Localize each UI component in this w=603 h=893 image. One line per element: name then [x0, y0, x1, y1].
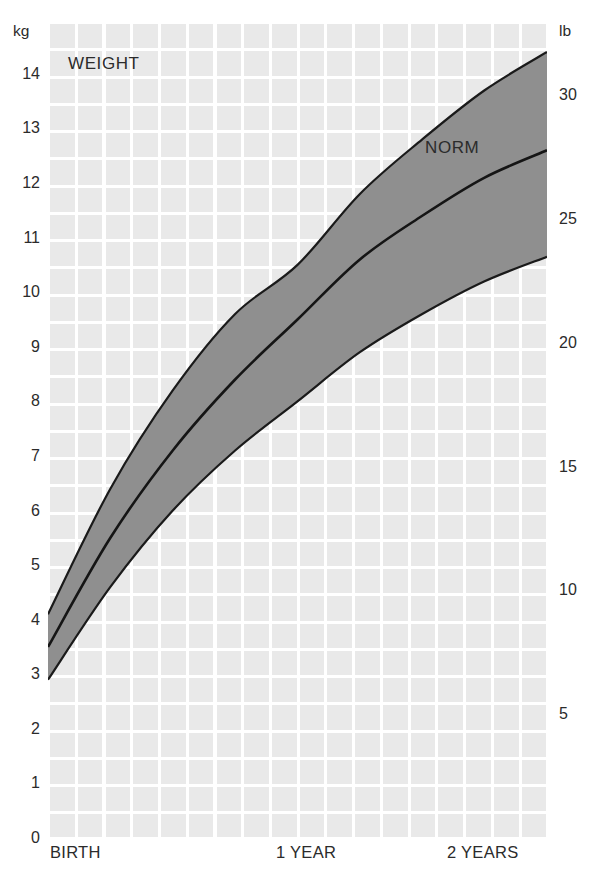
right-tick-5lb: 5 — [559, 705, 603, 723]
right-tick-30lb: 30 — [559, 86, 603, 104]
norm-annotation-label: NORM — [425, 138, 479, 158]
right-axis-unit: lb — [559, 22, 571, 40]
left-tick-7kg: 7 — [0, 447, 40, 465]
left-tick-13kg: 13 — [0, 119, 40, 137]
left-tick-3kg: 3 — [0, 665, 40, 683]
left-tick-8kg: 8 — [0, 392, 40, 410]
right-tick-10lb: 10 — [559, 581, 603, 599]
x-tick-birth: BIRTH — [50, 843, 101, 862]
left-axis-unit: kg — [13, 22, 29, 40]
left-tick-14kg: 14 — [0, 65, 40, 83]
right-tick-15lb: 15 — [559, 458, 603, 476]
left-tick-11kg: 11 — [0, 229, 40, 247]
left-tick-9kg: 9 — [0, 338, 40, 356]
left-tick-0kg: 0 — [0, 829, 40, 847]
right-tick-25lb: 25 — [559, 210, 603, 228]
left-tick-10kg: 10 — [0, 283, 40, 301]
weight-growth-chart: WEIGHT NORM kg lb 14131211109876543210 3… — [0, 0, 603, 893]
left-tick-1kg: 1 — [0, 774, 40, 792]
left-tick-2kg: 2 — [0, 720, 40, 738]
x-tick-2-years: 2 YEARS — [447, 843, 519, 862]
right-tick-20lb: 20 — [559, 334, 603, 352]
x-tick-1-year: 1 YEAR — [276, 843, 336, 862]
left-tick-12kg: 12 — [0, 174, 40, 192]
left-tick-4kg: 4 — [0, 611, 40, 629]
left-tick-6kg: 6 — [0, 502, 40, 520]
left-tick-5kg: 5 — [0, 556, 40, 574]
page-title: WEIGHT — [68, 54, 140, 74]
